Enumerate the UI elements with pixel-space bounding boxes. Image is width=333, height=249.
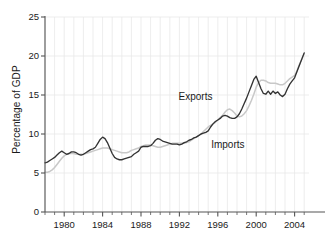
series-line-imports [45,53,304,163]
grid-vertical-minor [45,17,304,212]
series-lines [45,53,304,172]
y-tick-label: 25 [17,11,39,22]
x-tick-label: 2000 [239,219,273,230]
x-tick-label: 1992 [162,219,196,230]
axis-lines [45,16,325,212]
y-tick-label: 15 [17,89,39,100]
y-tick-label: 5 [17,167,39,178]
series-label-exports: Exports [179,91,213,102]
chart-figure: Percentage of GDP 0510152025 19801984198… [0,0,333,249]
chart-plot-area [0,0,333,249]
y-tick-label: 20 [17,50,39,61]
y-axis-title: Percentage of GDP [11,50,22,170]
x-axis-ticks-major [64,212,294,217]
x-tick-label: 1996 [201,219,235,230]
y-axis-ticks [41,17,45,212]
x-tick-label: 1980 [47,219,81,230]
x-tick-label: 2004 [278,219,312,230]
x-tick-label: 1988 [124,219,158,230]
grid-horizontal-major [45,17,309,173]
series-label-imports: Imports [211,139,244,150]
x-tick-label: 1984 [86,219,120,230]
y-tick-label: 10 [17,128,39,139]
y-tick-label: 0 [17,206,39,217]
